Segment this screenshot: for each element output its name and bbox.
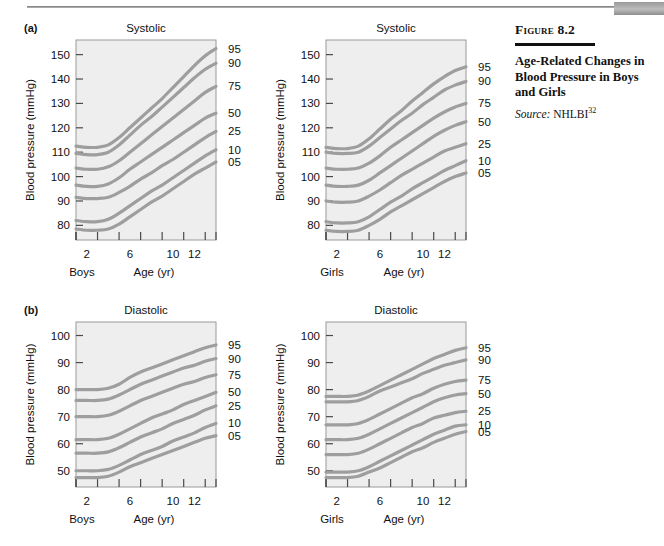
y-tick-label: 110 xyxy=(302,146,320,158)
y-tick-label: 90 xyxy=(57,357,70,369)
x-tick-label: 6 xyxy=(377,495,383,507)
percentile-label-90: 90 xyxy=(478,354,491,366)
panel-title: Diastolic xyxy=(374,304,418,316)
x-tick-label: 6 xyxy=(377,248,383,260)
percentile-label-50: 50 xyxy=(228,386,241,398)
y-tick-label: 100 xyxy=(301,171,320,183)
percentile-label-05: 05 xyxy=(478,167,491,179)
panel-title: Diastolic xyxy=(124,304,168,316)
chart-boys-systolic: (a)Systolic8090100110120130140150261012A… xyxy=(0,18,250,290)
panel-boys-diastolic: (b)Diastolic5060708090100261012Age (yr)B… xyxy=(0,300,250,546)
percentile-label-05: 05 xyxy=(228,156,241,168)
percentile-label-75: 75 xyxy=(478,97,491,109)
percentile-label-50: 50 xyxy=(478,116,491,128)
percentile-label-25: 25 xyxy=(478,138,491,150)
group-label: Girls xyxy=(320,266,344,278)
percentile-label-25: 25 xyxy=(228,400,241,412)
figure-title: Age-Related Changes in Blood Pressure in… xyxy=(515,54,657,101)
y-axis-label: Blood pressure (mmHg) xyxy=(274,343,286,465)
y-tick-label: 70 xyxy=(57,411,70,423)
caption-divider xyxy=(515,43,595,46)
percentile-label-10: 10 xyxy=(228,417,241,429)
percentile-label-75: 75 xyxy=(228,369,241,381)
percentile-label-75: 75 xyxy=(478,374,491,386)
x-tick-label: 12 xyxy=(438,495,451,507)
percentile-label-50: 50 xyxy=(478,388,491,400)
panel-boys-systolic: (a)Systolic8090100110120130140150261012A… xyxy=(0,18,250,290)
y-tick-label: 80 xyxy=(57,384,70,396)
y-tick-label: 130 xyxy=(51,97,70,109)
panel-girls-systolic: Systolic8090100110120130140150261012Age … xyxy=(250,18,500,290)
y-tick-label: 100 xyxy=(51,330,70,342)
group-label: Boys xyxy=(69,513,95,525)
y-tick-label: 140 xyxy=(301,73,320,85)
y-tick-label: 100 xyxy=(301,330,320,342)
x-tick-label: 2 xyxy=(334,248,340,260)
percentile-label-05: 05 xyxy=(228,430,241,442)
y-tick-label: 140 xyxy=(51,73,70,85)
group-label: Boys xyxy=(69,266,95,278)
x-tick-label: 2 xyxy=(84,495,90,507)
x-tick-label: 2 xyxy=(334,495,340,507)
x-tick-label: 12 xyxy=(188,248,201,260)
y-tick-label: 120 xyxy=(51,122,70,134)
x-axis-label: Age (yr) xyxy=(384,266,425,278)
figure-caption: Figure 8.2 Age-Related Changes in Blood … xyxy=(515,22,657,119)
percentile-label-50: 50 xyxy=(228,107,241,119)
percentile-label-10: 10 xyxy=(228,144,241,156)
y-tick-label: 60 xyxy=(307,438,320,450)
group-label: Girls xyxy=(320,513,344,525)
percentile-label-75: 75 xyxy=(228,80,241,92)
y-tick-label: 60 xyxy=(57,438,70,450)
panel-title: Systolic xyxy=(376,22,416,34)
x-tick-label: 12 xyxy=(438,248,451,260)
chart-boys-diastolic: (b)Diastolic5060708090100261012Age (yr)B… xyxy=(0,300,250,546)
header-rule xyxy=(27,6,652,8)
percentile-label-90: 90 xyxy=(478,75,491,87)
percentile-label-95: 95 xyxy=(228,43,241,55)
y-tick-label: 80 xyxy=(307,219,320,231)
y-tick-label: 80 xyxy=(57,219,70,231)
percentile-label-95: 95 xyxy=(478,342,491,354)
x-tick-label: 10 xyxy=(167,495,180,507)
x-tick-label: 6 xyxy=(127,495,133,507)
x-tick-label: 12 xyxy=(188,495,201,507)
y-tick-label: 120 xyxy=(301,122,320,134)
y-axis-label: Blood pressure (mmHg) xyxy=(274,79,286,201)
y-tick-label: 80 xyxy=(307,384,320,396)
figure-number: Figure 8.2 xyxy=(515,22,657,38)
y-tick-label: 100 xyxy=(51,171,70,183)
y-tick-label: 90 xyxy=(57,195,70,207)
panel-letter: (b) xyxy=(24,304,38,316)
y-tick-label: 90 xyxy=(307,195,320,207)
x-axis-label: Age (yr) xyxy=(384,513,425,525)
percentile-label-90: 90 xyxy=(228,57,241,69)
x-tick-label: 10 xyxy=(167,248,180,260)
y-tick-label: 50 xyxy=(57,465,70,477)
y-tick-label: 150 xyxy=(301,49,320,61)
page-corner-tab xyxy=(614,2,664,15)
x-axis-label: Age (yr) xyxy=(134,266,175,278)
y-axis-label: Blood pressure (mmHg) xyxy=(24,343,36,465)
y-tick-label: 150 xyxy=(51,49,70,61)
chart-girls-diastolic: Diastolic5060708090100261012Age (yr)Girl… xyxy=(250,300,500,546)
x-tick-label: 10 xyxy=(417,248,430,260)
y-tick-label: 50 xyxy=(307,465,320,477)
panel-letter: (a) xyxy=(24,22,38,34)
source-label: Source: xyxy=(515,107,550,119)
y-axis-label: Blood pressure (mmHg) xyxy=(24,79,36,201)
x-tick-label: 10 xyxy=(417,495,430,507)
y-tick-label: 70 xyxy=(307,411,320,423)
source-value: NHLBI xyxy=(553,107,588,119)
chart-girls-systolic: Systolic8090100110120130140150261012Age … xyxy=(250,18,500,290)
y-tick-label: 90 xyxy=(307,357,320,369)
x-tick-label: 2 xyxy=(84,248,90,260)
source-superscript: 32 xyxy=(588,106,596,115)
panel-girls-diastolic: Diastolic5060708090100261012Age (yr)Girl… xyxy=(250,300,500,546)
figure-source: Source: NHLBI32 xyxy=(515,106,657,120)
percentile-label-05: 05 xyxy=(478,426,491,438)
x-axis-label: Age (yr) xyxy=(134,513,175,525)
percentile-label-10: 10 xyxy=(478,155,491,167)
y-tick-label: 110 xyxy=(52,146,70,158)
x-tick-label: 6 xyxy=(127,248,133,260)
